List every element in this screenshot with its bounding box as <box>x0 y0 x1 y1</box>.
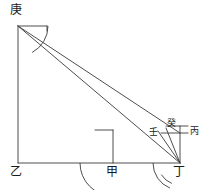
vertex-label-jia: 甲 <box>106 166 118 178</box>
vertex-label-ren: 壬 <box>149 128 158 137</box>
segment-geng-ren-sightline <box>18 26 180 133</box>
vertex-label-geng: 庚 <box>10 4 22 16</box>
vertex-label-yi: 乙 <box>10 166 22 178</box>
segment-geng-ding-hypotenuse <box>18 26 180 163</box>
arc-geng-angle-arc <box>32 26 48 52</box>
figure-canvas <box>0 0 209 190</box>
arc-ding-inner-arc <box>161 175 171 184</box>
vertex-label-bing: 丙 <box>190 127 199 136</box>
vertex-label-gui: 癸 <box>167 119 176 128</box>
geometry-diagram: 庚 乙 甲 丁 丙 壬 癸 <box>0 0 209 190</box>
vertex-label-ding: 丁 <box>173 166 185 178</box>
